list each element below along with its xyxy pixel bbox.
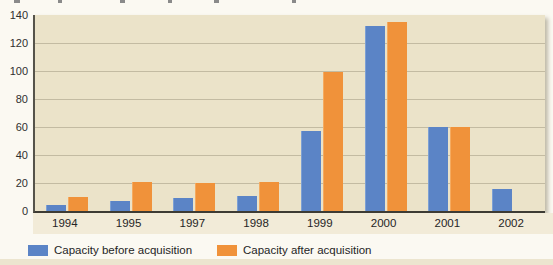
bar-2002-before xyxy=(492,189,512,211)
y-tick-label: 40 xyxy=(0,150,28,161)
bar-1995-after xyxy=(132,182,152,211)
bar-2001-after xyxy=(450,127,470,211)
x-tick-label: 1995 xyxy=(99,217,159,229)
y-tick-label: 140 xyxy=(0,10,28,21)
y-tick-label: 0 xyxy=(0,206,28,217)
x-tick-label: 2001 xyxy=(417,217,477,229)
x-tick-label: 2000 xyxy=(354,217,414,229)
bar-1994-after xyxy=(68,197,88,211)
x-tick-label: 1997 xyxy=(162,217,222,229)
bar-1997-after xyxy=(195,183,215,211)
plot-area xyxy=(33,15,545,213)
grouped-bar-chart: 140120100806040200 199419951997199819992… xyxy=(0,0,553,265)
bar-2001-before xyxy=(428,127,448,211)
bar-2000-after xyxy=(387,22,407,211)
y-tick-label: 20 xyxy=(0,178,28,189)
bar-1999-after xyxy=(323,72,343,211)
y-axis-tick-labels: 140120100806040200 xyxy=(0,0,28,220)
y-tick-label: 100 xyxy=(0,66,28,77)
gridline xyxy=(35,43,545,44)
bar-2000-before xyxy=(365,26,385,211)
gridline xyxy=(35,99,545,100)
bar-1999-before xyxy=(301,131,321,211)
y-tick-label: 120 xyxy=(0,38,28,49)
y-tick-label: 60 xyxy=(0,122,28,133)
y-tick-label: 80 xyxy=(0,94,28,105)
x-tick-label: 2002 xyxy=(481,217,541,229)
gridline xyxy=(35,71,545,72)
legend-swatch-before xyxy=(28,245,48,256)
legend-swatch-after xyxy=(217,245,237,256)
legend-label: Capacity before acquisition xyxy=(54,244,192,256)
bar-1995-before xyxy=(110,201,130,211)
bar-1994-before xyxy=(46,205,66,211)
bar-1997-before xyxy=(173,198,193,211)
x-tick-label: 1994 xyxy=(35,217,95,229)
bottom-edge-strip xyxy=(0,259,553,265)
x-tick-label: 1999 xyxy=(290,217,350,229)
x-tick-label: 1998 xyxy=(226,217,286,229)
chart-legend: Capacity before acquisitionCapacity afte… xyxy=(0,242,553,258)
bar-1998-after xyxy=(259,182,279,211)
bar-1998-before xyxy=(237,196,257,211)
legend-label: Capacity after acquisition xyxy=(243,244,371,256)
